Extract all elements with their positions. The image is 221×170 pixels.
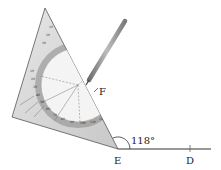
svg-text:70: 70 [53,113,57,117]
svg-text:20: 20 [46,33,50,37]
pencil [86,21,125,85]
svg-text:90: 90 [70,120,74,124]
angle-label: 118° [131,135,155,146]
svg-text:80: 80 [61,117,65,121]
svg-text:30: 30 [42,41,46,45]
svg-text:10: 10 [30,69,34,73]
svg-text:50: 50 [40,100,44,104]
svg-text:100: 100 [80,121,86,125]
point-label-f: F [99,86,106,97]
point-label-d: D [186,155,194,166]
svg-text:40: 40 [36,93,40,97]
geometry-diagram: 102030 405060 708090 100110120 302010 F … [0,0,221,170]
svg-text:20: 20 [31,77,35,81]
set-square: 102030 405060 708090 100110120 302010 [12,8,118,149]
svg-text:10: 10 [49,25,53,29]
svg-text:30: 30 [33,85,37,89]
f-tick [94,88,98,92]
point-label-e: E [114,155,121,166]
svg-text:60: 60 [46,107,50,111]
svg-text:110: 110 [90,120,96,124]
